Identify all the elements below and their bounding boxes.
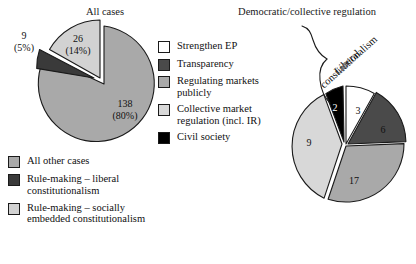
pie-label-138-percent: (80%) — [113, 110, 138, 122]
pie-label-9: 9 (5%) — [4, 30, 44, 53]
legend-swatch-icon — [8, 156, 20, 168]
left-chart-title: All cases — [0, 6, 210, 17]
pie-label-17: 17 — [349, 175, 359, 186]
legend-label: Civil society — [177, 131, 230, 143]
legend-label: Rule-making – liberal constitutionalism — [27, 173, 158, 197]
legend-swatch-icon — [158, 41, 170, 53]
pie-label-9: 9 — [307, 137, 312, 148]
left-chart-legend: All other cases Rule-making – liberal co… — [8, 155, 158, 230]
legend-label: All other cases — [27, 155, 89, 167]
legend-label: Strengthen EP — [177, 40, 237, 52]
legend-item-transparency[interactable]: Transparency — [158, 58, 278, 71]
legend-label: Transparency — [177, 58, 234, 70]
legend-item-civil-society[interactable]: Civil society — [158, 131, 278, 144]
pie-label-2: 2 — [333, 102, 338, 113]
legend-swatch-icon — [158, 104, 170, 116]
legend-item-all-other-cases[interactable]: All other cases — [8, 155, 158, 168]
pie-label-3: 3 — [356, 105, 361, 116]
legend-swatch-icon — [158, 76, 170, 88]
right-pie-chart: 3 6 17 9 2 — [272, 82, 416, 208]
legend-label: Rule-making – socially embedded constitu… — [27, 202, 158, 226]
legend-item-rule-making-liberal[interactable]: Rule-making – liberal constitutionalism — [8, 173, 158, 197]
legend-item-collective-market-regulation[interactable]: Collective market regulation (incl. IR) — [158, 103, 278, 127]
legend-item-strengthen-ep[interactable]: Strengthen EP — [158, 40, 278, 53]
legend-swatch-icon — [158, 132, 170, 144]
pie-label-138-value: 138 — [118, 98, 133, 109]
pie-label-26-percent: (14%) — [66, 45, 91, 57]
pie-label-9-percent: (5%) — [4, 42, 44, 54]
legend-swatch-icon — [8, 203, 20, 215]
pie-label-9-value: 9 — [4, 30, 44, 42]
legend-label: Collective market regulation (incl. IR) — [177, 103, 278, 127]
legend-swatch-icon — [8, 174, 20, 186]
legend-label: Regulating markets publicly — [177, 75, 278, 99]
legend-swatch-icon — [158, 59, 170, 71]
figure-root: All cases Democratic/collective regulati… — [0, 0, 416, 264]
pie-label-6: 6 — [381, 124, 386, 135]
legend-item-regulating-markets-publicly[interactable]: Regulating markets publicly — [158, 75, 278, 99]
legend-item-rule-making-socially-embedded[interactable]: Rule-making – socially embedded constitu… — [8, 202, 158, 226]
right-chart-title: Democratic/collective regulation — [198, 6, 416, 17]
right-chart-legend: Strengthen EP Transparency Regulating ma… — [158, 40, 278, 149]
pie-label-26-value: 26 — [73, 33, 83, 44]
